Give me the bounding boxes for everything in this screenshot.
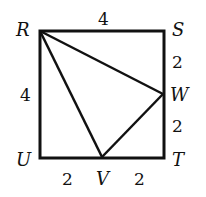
segment-VW	[102, 94, 163, 157]
length-RS: 4	[98, 9, 109, 29]
length-RU: 4	[20, 85, 31, 105]
triangle-RWV	[40, 31, 163, 157]
length-SW: 2	[172, 52, 183, 72]
length-UV: 2	[62, 169, 73, 189]
segment-RW	[40, 31, 163, 94]
label-T: T	[172, 149, 186, 170]
label-V: V	[96, 168, 111, 189]
label-S: S	[172, 19, 184, 40]
label-R: R	[15, 19, 30, 40]
length-WT: 2	[172, 116, 183, 136]
length-VT: 2	[134, 169, 145, 189]
label-W: W	[170, 84, 190, 105]
square-RSTU	[40, 31, 164, 158]
geometry-diagram: R S W T U V 4 4 2 2 2 2	[0, 0, 206, 197]
label-U: U	[16, 149, 32, 170]
segment-RV	[40, 31, 102, 157]
